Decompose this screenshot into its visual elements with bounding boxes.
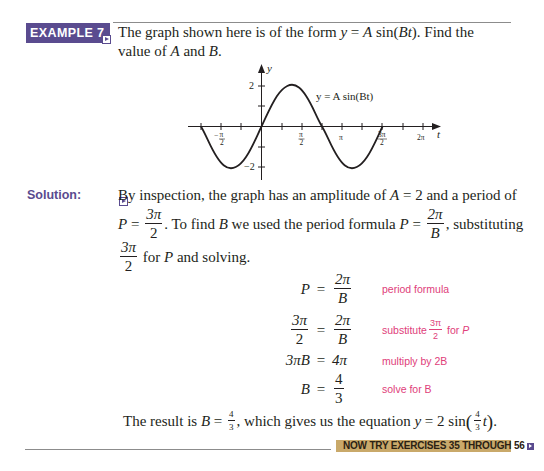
solution-line3: 3π2 for P and solving.: [118, 240, 250, 274]
y-tick-label-neg2: −2: [244, 161, 255, 172]
equation-step: 3π2 = 2πB substitute 3π2 for P: [210, 313, 469, 347]
try-exercises-label: NOW TRY EXERCISES 35 THROUGH 56: [343, 440, 525, 451]
solution-label: Solution:: [27, 188, 81, 202]
t-tick-labels: −π2 π2 π 3π2 2π: [214, 130, 425, 147]
svg-text:2: 2: [220, 138, 224, 147]
equation-step: P = 2πB period formula: [210, 272, 449, 306]
play-arrow-icon: [527, 443, 534, 450]
solution-line2: P = 3π2. To find B we used the period fo…: [118, 207, 538, 241]
svg-text:2: 2: [300, 138, 304, 147]
solution-line1: By inspection, the graph has an amplitud…: [118, 186, 528, 205]
t-axis-label: t: [437, 128, 441, 140]
fraction: 3π2: [145, 207, 162, 241]
try-exercises-link[interactable]: NOW TRY EXERCISES 35 THROUGH 56: [336, 440, 511, 452]
fraction: 2πB: [427, 207, 444, 241]
bottom-rule: [25, 449, 331, 450]
sine-graph: y t y = A sin(Bt) 2 −2 −π2 π2 π 3π2 2π: [0, 0, 544, 185]
y-axis-arrow-icon: [258, 64, 265, 73]
step-note: multiply by 2B: [382, 355, 447, 367]
step-note: solve for B: [382, 383, 432, 395]
svg-text:π: π: [339, 133, 343, 142]
equation-step: 3πB = 4π multiply by 2B: [210, 352, 447, 369]
equation-step: B = 43 solve for B: [210, 372, 432, 406]
y-axis-label: y: [266, 62, 272, 74]
step-note: substitute 3π2 for P: [382, 319, 469, 341]
result-line: The result is B = 43, which gives us the…: [123, 410, 497, 432]
svg-text:−: −: [214, 131, 218, 140]
svg-text:2: 2: [380, 138, 384, 147]
step-note: period formula: [382, 283, 449, 295]
svg-text:2π: 2π: [417, 133, 425, 142]
fraction: 3π2: [120, 240, 137, 274]
curve-label: y = A sin(Bt): [316, 90, 374, 103]
y-tick-label-2: 2: [249, 80, 254, 91]
